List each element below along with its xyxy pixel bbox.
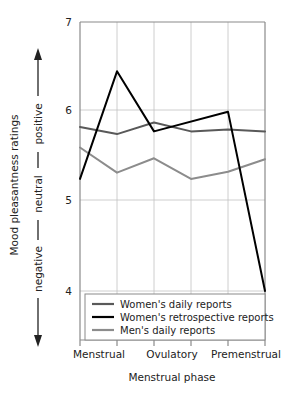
mood-pleasantness-line-chart: 7 6 5 4 Menstrual Ovulatory Premenstrual… [0,0,306,395]
y-scale-label-neutral: neutral [32,175,44,213]
x-tick-label-menstrual: Menstrual [73,348,125,360]
legend-label-mens-daily: Men's daily reports [120,325,215,336]
x-tick-label-premenstrual: Premenstrual [211,348,281,360]
y-tick-label-4: 4 [65,285,72,297]
y-scale-label-positive: positive [32,103,44,144]
chart-legend[interactable]: Women's daily reports Women's retrospect… [85,294,274,340]
legend-label-womens-daily: Women's daily reports [120,299,232,310]
y-tick-label-6: 6 [65,104,72,116]
legend-label-womens-retrospective: Women's retrospective reports [120,312,274,323]
x-tick-label-ovulatory: Ovulatory [146,348,198,360]
y-tick-label-7: 7 [65,16,72,28]
legend-item-womens-retrospective-reports[interactable]: Women's retrospective reports [92,312,274,323]
y-tick-label-5: 5 [65,194,72,206]
y-axis-title: Mood pleasantness ratings [8,114,20,255]
chart-container: 7 6 5 4 Menstrual Ovulatory Premenstrual… [0,0,306,395]
y-scale-label-negative: negative [32,246,44,292]
x-axis-title: Menstrual phase [128,371,215,383]
